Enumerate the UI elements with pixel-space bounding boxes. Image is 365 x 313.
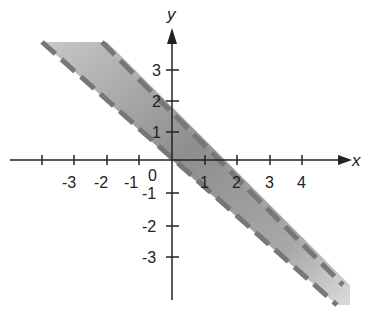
x-tick-label: -2: [94, 174, 108, 191]
y-axis-label: y: [166, 5, 177, 24]
x-tick-label: 4: [297, 174, 306, 191]
upper-dashed-line: [102, 42, 343, 285]
x-tick-label: 1: [200, 174, 209, 191]
y-axis-arrow-icon: [167, 28, 177, 44]
origin-label: 0: [148, 167, 157, 184]
x-tick-label: -3: [62, 174, 76, 191]
y-tick-label: 3: [152, 62, 161, 79]
y-tick-label: -1: [142, 185, 156, 202]
plot-svg: x y 0 -3 -2 -1 1 2 3 4 3 2 1 -1 -2 -3: [0, 0, 365, 313]
y-tick-label: 2: [152, 93, 161, 110]
x-tick-label: 3: [265, 174, 274, 191]
x-tick-label: -1: [124, 174, 138, 191]
x-axis-arrow-icon: [338, 155, 352, 165]
x-axis-label: x: [351, 151, 361, 170]
y-tick-label: -2: [142, 218, 156, 235]
lower-dashed-line: [42, 42, 337, 305]
chart: x y 0 -3 -2 -1 1 2 3 4 3 2 1 -1 -2 -3: [0, 0, 365, 313]
y-tick-label: 1: [152, 124, 161, 141]
y-tick-label: -3: [142, 249, 156, 266]
x-tick-label: 2: [232, 174, 241, 191]
